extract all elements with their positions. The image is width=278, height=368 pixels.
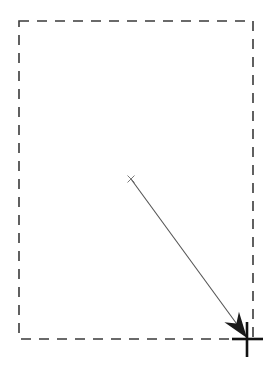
annotation-canvas (0, 0, 278, 368)
annotation-scene (0, 0, 278, 368)
canvas-background (0, 0, 278, 368)
